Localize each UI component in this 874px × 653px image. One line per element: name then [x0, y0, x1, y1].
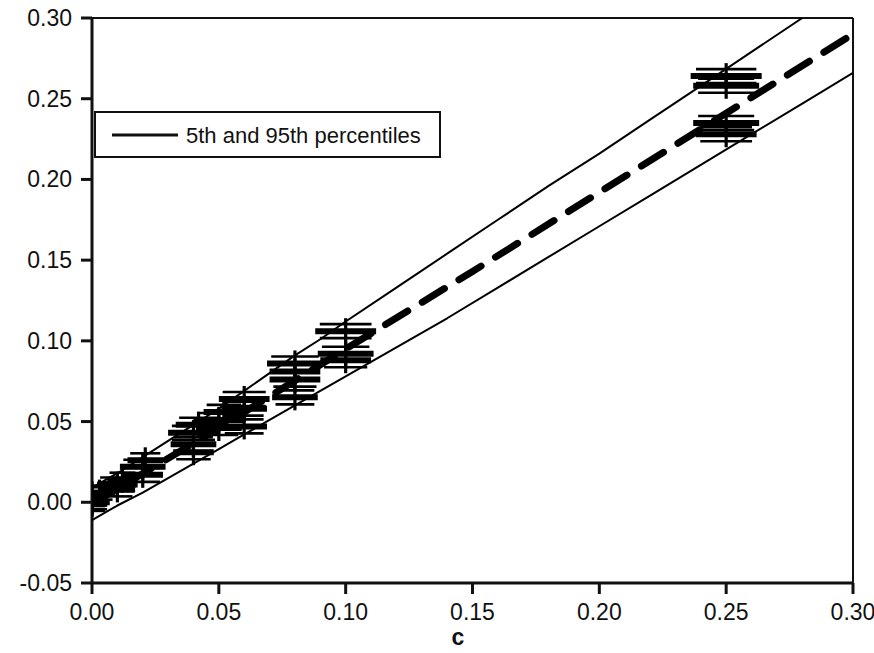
data-point-marker [315, 318, 376, 344]
y-tick-label: 0.20 [27, 166, 72, 192]
x-tick-label: 0.05 [196, 599, 241, 625]
legend-entry-label: 5th and 95th percentiles [186, 123, 421, 148]
y-tick-label: 0.25 [27, 86, 72, 112]
y-tick-label: 0.10 [27, 328, 72, 354]
x-axis-tick-labels: 0.000.050.100.150.200.250.30 [70, 599, 874, 625]
y-tick-label: 0.05 [27, 409, 72, 435]
chart-container: -0.050.000.050.100.150.200.250.30 0.000.… [0, 0, 874, 653]
x-tick-label: 0.15 [450, 599, 495, 625]
x-tick-label: 0.10 [323, 599, 368, 625]
plot-frame [92, 18, 853, 583]
y-tick-label: 0.15 [27, 247, 72, 273]
scatter-plot-figure: -0.050.000.050.100.150.200.250.30 0.000.… [0, 0, 874, 653]
y-tick-label: 0.00 [27, 489, 72, 515]
y-axis-tick-labels: -0.050.000.050.100.150.200.250.30 [20, 5, 72, 596]
x-tick-label: 0.00 [70, 599, 115, 625]
y-tick-label: -0.05 [20, 570, 72, 596]
x-axis-ticks [92, 583, 853, 594]
x-tick-label: 0.30 [831, 599, 874, 625]
x-axis-title: c [452, 624, 465, 650]
y-tick-label: 0.30 [27, 5, 72, 31]
x-tick-label: 0.20 [577, 599, 622, 625]
x-tick-label: 0.25 [704, 599, 749, 625]
legend: 5th and 95th percentiles [95, 112, 440, 157]
y-axis-ticks [81, 18, 92, 583]
